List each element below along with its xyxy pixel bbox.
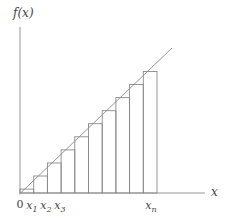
tick-label-x1: x1 [25,200,39,214]
approx-rectangle [102,111,116,193]
y-axis-label: f(x) [13,7,34,19]
tick-label-x2: x2 [39,200,53,214]
tick-sub: 2 [47,205,52,214]
approx-rectangle [47,163,61,193]
tick-sub: n [152,205,157,214]
figure-canvas [0,0,231,223]
approx-rectangle [75,137,89,193]
tick-sub: 1 [33,205,38,214]
tick-label-x3: x3 [53,200,67,214]
approx-rectangle [89,124,103,193]
approx-rectangle [130,85,144,194]
riemann-sum-figure: f(x) x 0 x1 x2 x3 xn [0,0,231,223]
function-line [19,48,172,195]
x-axis-label: x [211,186,218,198]
approx-rectangle [143,72,157,194]
origin-label: 0 [15,199,25,211]
approx-rectangle [116,98,130,193]
approx-rectangle [61,150,75,193]
tick-label-xn: xn [144,200,158,214]
tick-sub: 3 [61,205,66,214]
